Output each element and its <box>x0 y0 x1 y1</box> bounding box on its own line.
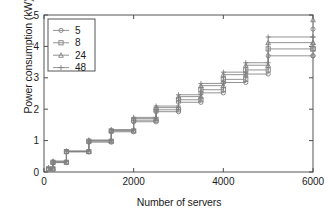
data-point <box>198 81 203 86</box>
y-tick-label: 2 <box>33 104 39 115</box>
legend-label-24: 24 <box>75 50 87 61</box>
y-tick-label: 5 <box>33 10 39 21</box>
data-point <box>311 34 316 39</box>
legend-label-5: 5 <box>75 25 81 36</box>
y-tick-label: 3 <box>33 72 39 83</box>
plot-canvas: 0200040006000 012345 582448 <box>0 0 325 218</box>
figure: Power consumption (kW) Number of servers… <box>0 0 325 218</box>
legend-label-8: 8 <box>75 37 81 48</box>
y-tick-label: 1 <box>33 135 39 146</box>
x-tick-label: 4000 <box>212 176 235 187</box>
data-point <box>221 70 226 75</box>
chart-legend: 582448 <box>48 19 95 73</box>
legend-label-48: 48 <box>75 62 87 73</box>
x-tick-label: 2000 <box>123 176 146 187</box>
legend-box <box>48 19 95 71</box>
data-point <box>266 60 271 65</box>
data-point <box>266 34 271 39</box>
data-point <box>243 60 248 65</box>
x-tick-label: 0 <box>41 176 47 187</box>
x-tick-labels: 0200040006000 <box>41 176 324 187</box>
y-tick-label: 4 <box>33 41 39 52</box>
x-tick-label: 6000 <box>302 176 325 187</box>
y-tick-labels: 012345 <box>33 10 39 178</box>
y-tick-label: 0 <box>33 167 39 178</box>
